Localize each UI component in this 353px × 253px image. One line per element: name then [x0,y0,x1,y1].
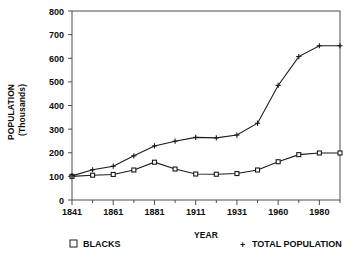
square-marker-icon [194,172,198,176]
square-marker-icon [152,160,156,164]
legend-label-total-population: TOTAL POPULATION [252,239,342,249]
population-line-chart: POPULATION (Thousands) 01002003004005006… [0,0,353,253]
square-marker-icon [91,173,95,177]
square-marker-icon [317,151,321,155]
y-tick-label: 800 [49,7,64,17]
x-tick-label: 1881 [144,207,164,217]
square-marker-icon [235,172,239,176]
x-tick-label: 1960 [268,207,288,217]
y-tick-label: 200 [49,148,64,158]
legend-item-total-population: + TOTAL POPULATION [240,239,342,250]
x-tick-label: 1841 [62,207,82,217]
plus-marker-icon: + [240,240,245,250]
square-marker-icon [297,153,301,157]
y-axis-title: POPULATION (Thousands) [6,84,27,140]
y-tick-label: 0 [59,196,64,206]
square-marker-icon [173,167,177,171]
x-tick-label: 1980 [309,207,329,217]
legend-label-blacks: BLACKS [83,239,121,249]
y-axis-title-line1: POPULATION [6,84,16,140]
square-marker-icon [256,168,260,172]
square-marker-icon [338,151,342,155]
y-tick-label: 700 [49,30,64,40]
y-tick-label: 400 [49,101,64,111]
y-tick-label: 500 [49,77,64,87]
square-marker-icon [276,160,280,164]
y-tick-label: 600 [49,54,64,64]
x-axis-title: YEAR [194,230,218,240]
y-tick-label: 300 [49,125,64,135]
square-marker-icon [132,168,136,172]
square-marker-icon [111,172,115,176]
y-tick-label: 100 [49,172,64,182]
x-tick-label: 1861 [103,207,123,217]
y-axis-title-line2: (Thousands) [17,84,27,136]
x-tick-label: 1911 [186,207,206,217]
x-tick-label: 1931 [227,207,247,217]
square-marker-icon [214,172,218,176]
